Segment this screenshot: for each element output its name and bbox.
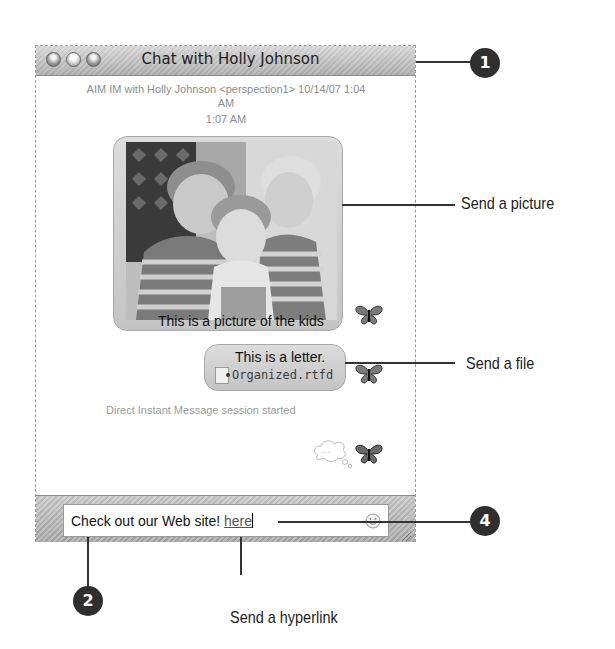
message-input-bar: Check out our Web site! here bbox=[36, 495, 415, 542]
thought-bubble-icon: • • • bbox=[312, 439, 354, 469]
file-bullet-icon bbox=[226, 373, 230, 377]
message-timestamp: 1:07 AM bbox=[56, 112, 396, 126]
callout-badge-2: 2 bbox=[73, 586, 103, 616]
callout-line-2 bbox=[87, 537, 89, 589]
text-caret bbox=[252, 513, 253, 528]
butterfly-buddy-icon bbox=[354, 304, 384, 326]
message-input-text[interactable]: Check out our Web site! here bbox=[71, 513, 253, 529]
kids-photo[interactable] bbox=[126, 142, 337, 320]
callout-line-1 bbox=[416, 61, 472, 63]
callout-line-4 bbox=[278, 521, 474, 523]
picture-caption: This is a picture of the kids bbox=[158, 313, 324, 329]
transcript-header: AIM IM with Holly Johnson <perspection1>… bbox=[56, 82, 396, 126]
title-bar[interactable]: Chat with Holly Johnson bbox=[36, 46, 415, 76]
callout-label-send-picture: Send a picture bbox=[461, 194, 554, 214]
chat-window: Chat with Holly Johnson AIM IM with Holl… bbox=[35, 45, 416, 542]
file-message-bubble[interactable]: This is a letter. Organized.rtfd bbox=[204, 344, 346, 391]
butterfly-buddy-icon bbox=[354, 363, 384, 385]
picture-message-bubble[interactable]: This is a picture of the kids bbox=[113, 136, 343, 331]
resize-grip-icon[interactable] bbox=[400, 528, 412, 540]
session-info-cont: AM bbox=[56, 96, 396, 110]
window-title: Chat with Holly Johnson bbox=[36, 50, 415, 68]
callout-line-file bbox=[345, 362, 455, 364]
callout-label-send-file: Send a file bbox=[466, 354, 534, 374]
file-attachment-link[interactable]: Organized.rtfd bbox=[232, 368, 333, 382]
session-status: Direct Instant Message session started bbox=[106, 404, 296, 416]
callout-line-picture bbox=[342, 204, 455, 206]
callout-line-hyperlink bbox=[240, 537, 242, 575]
callout-label-send-hyperlink: Send a hyperlink bbox=[230, 608, 338, 628]
callout-badge-1: 1 bbox=[470, 48, 500, 78]
hyperlink-text[interactable]: here bbox=[224, 513, 252, 529]
butterfly-buddy-icon bbox=[354, 443, 384, 465]
input-plain-text: Check out our Web site! bbox=[71, 513, 224, 529]
file-message-text: This is a letter. bbox=[235, 349, 325, 365]
session-info: AIM IM with Holly Johnson <perspection1>… bbox=[56, 82, 396, 96]
callout-badge-4: 4 bbox=[470, 506, 500, 536]
svg-text:• • •: • • • bbox=[322, 449, 330, 455]
